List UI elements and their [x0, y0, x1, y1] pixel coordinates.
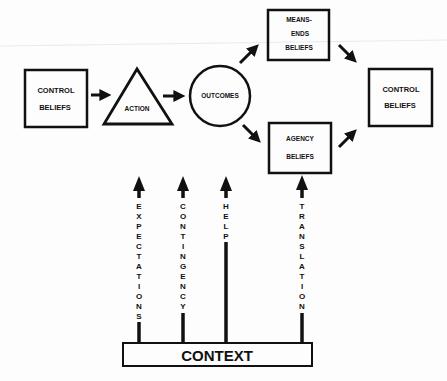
arrow-letter: T [300, 272, 305, 281]
arrow-letter: C [180, 292, 186, 301]
arrow-letter: O [299, 292, 305, 301]
arrow-outcomes-to-agency [243, 125, 257, 139]
arrow-letter: P [223, 232, 229, 241]
arrow-letter: I [138, 282, 140, 291]
arrow-letter: P [136, 222, 142, 231]
arrow-letter: A [299, 222, 305, 231]
node-label: CONTEXT [181, 347, 253, 364]
arrow-letter: X [136, 212, 142, 221]
context-arrow-translation: TRANSLATION [296, 175, 308, 343]
node-label: BELIEFS [286, 153, 314, 160]
arrow-letter: N [136, 302, 142, 311]
arrow-letter: C [136, 242, 142, 251]
arrow-letter: H [223, 202, 229, 211]
arrow-letter: E [136, 202, 142, 211]
arrow-letter: E [180, 272, 186, 281]
node-means-ends-beliefs: MEANS- ENDS BELIEFS [268, 10, 329, 60]
control-beliefs-diagram: CONTROL BELIEFS ACTION OUTCOMES MEANS- E… [0, 0, 447, 381]
node-label: BELIEFS [285, 44, 313, 51]
arrow-letter: I [182, 242, 184, 251]
arrow-letter: T [181, 232, 186, 241]
node-label: ENDS [291, 30, 310, 37]
arrow-letter: A [299, 262, 305, 271]
arrow-letter: L [224, 222, 229, 231]
arrow-letter: N [180, 252, 186, 261]
node-label: OUTCOMES [201, 92, 239, 99]
context-arrow-expectations: EXPECTATIONS [133, 176, 145, 343]
arrow-letter: N [299, 232, 305, 241]
node-label: ACTION [125, 105, 150, 112]
node-label: CONTROL [37, 86, 74, 95]
arrow-letter: O [180, 212, 186, 221]
arrow-letter: I [301, 282, 303, 291]
context-arrow-contingency: CONTINGENCY [177, 176, 189, 343]
node-agency-beliefs: AGENCY BELIEFS [269, 123, 331, 173]
arrow-letter: T [137, 252, 142, 261]
arrow-letter: T [137, 272, 142, 281]
arrow-letter: Y [180, 302, 186, 311]
arrow-letter: O [136, 292, 142, 301]
arrow-letter: L [300, 252, 305, 261]
arrow-letter: N [299, 302, 305, 311]
node-action: ACTION [104, 69, 172, 124]
arrow-letter: R [299, 212, 305, 221]
context-arrow-help: HELP [220, 176, 232, 343]
arrow-letter: N [180, 282, 186, 291]
arrow-means-ends-to-control [339, 45, 353, 59]
node-outcomes: OUTCOMES [190, 66, 250, 126]
arrow-letter: A [136, 262, 142, 271]
node-control-beliefs-left: CONTROL BELIEFS [25, 70, 87, 127]
arrow-letter: S [136, 312, 142, 321]
node-label: CONTROL [382, 85, 419, 94]
arrow-letter: C [180, 202, 186, 211]
node-label: BELIEFS [384, 101, 416, 110]
scan-artifact-line [0, 40, 447, 46]
arrow-agency-to-control [339, 133, 353, 147]
arrow-letter: S [299, 242, 305, 251]
arrow-letter: E [136, 232, 142, 241]
arrow-outcomes-to-means-ends [240, 48, 255, 63]
node-context: CONTEXT [123, 343, 312, 366]
node-control-beliefs-right: CONTROL BELIEFS [369, 69, 432, 126]
node-label: BELIEFS [39, 103, 71, 112]
arrow-letter: E [223, 212, 229, 221]
arrow-letter: T [300, 202, 305, 211]
arrow-letter: G [180, 262, 186, 271]
arrow-letter: N [180, 222, 186, 231]
node-label: MEANS- [286, 16, 312, 23]
node-label: AGENCY [286, 135, 314, 142]
